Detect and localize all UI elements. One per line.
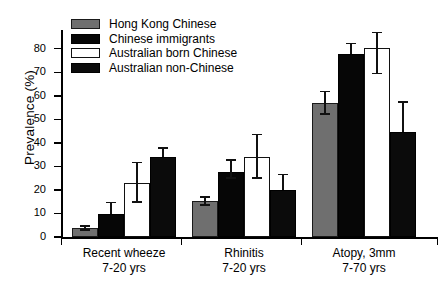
error-bar-cap-bottom [252, 177, 263, 178]
y-axis-tick [54, 95, 62, 96]
error-bar [350, 43, 351, 54]
y-axis-tick-label: 20 [0, 184, 46, 195]
x-axis-tick [181, 238, 182, 245]
bar [312, 103, 338, 237]
error-bar-cap-bottom [372, 73, 383, 74]
legend-swatch-imm [71, 34, 100, 44]
error-bar [324, 91, 325, 115]
y-axis-tick-label: 60 [0, 90, 46, 101]
bar [270, 190, 296, 237]
error-bar [402, 101, 403, 132]
error-bar-cap-top [252, 134, 263, 135]
y-axis-tick [54, 213, 62, 214]
error-bar-cap-top [80, 225, 91, 226]
bar [98, 214, 124, 237]
error-bar [84, 225, 85, 230]
y-axis-tick-label: 50 [0, 113, 46, 124]
legend-label: Chinese immigrants [109, 33, 215, 45]
x-axis-line [61, 237, 438, 239]
error-bar [230, 159, 231, 178]
y-axis-tick [54, 119, 62, 120]
legend-swatch-aus-non [71, 63, 100, 73]
error-bar [162, 147, 163, 157]
chart-figure: Prevalence (%) 01020304050607080 Recent … [0, 0, 448, 281]
legend-label: Hong Kong Chinese [109, 18, 216, 30]
error-bar-cap-bottom [226, 177, 237, 178]
x-axis-tick [437, 238, 438, 245]
y-axis-tick-label: 10 [0, 207, 46, 218]
legend-label: Australian born Chinese [109, 47, 237, 59]
error-bar-cap-top [226, 159, 237, 160]
legend-item: Australian non-Chinese [71, 61, 237, 76]
legend-swatch-hk [71, 19, 100, 29]
legend-item: Australian born Chinese [71, 46, 237, 61]
error-bar-cap-top [158, 147, 169, 148]
error-bar-cap-bottom [320, 113, 331, 114]
error-bar-cap-bottom [132, 201, 143, 202]
y-axis-tick-label: 0 [0, 231, 46, 242]
error-bar [376, 32, 377, 74]
error-bar-cap-top [320, 91, 331, 92]
legend-label: Australian non-Chinese [109, 62, 234, 74]
error-bar-cap-top [278, 174, 289, 175]
error-bar-cap-top [346, 43, 357, 44]
y-axis-tick [54, 142, 62, 143]
bar [390, 132, 416, 237]
error-bar [110, 202, 111, 214]
x-axis-tick [61, 238, 62, 245]
error-bar-cap-top [200, 196, 211, 197]
y-axis-tick [54, 166, 62, 167]
error-bar [256, 134, 257, 179]
bar [192, 201, 218, 237]
error-bar-cap-bottom [80, 229, 91, 230]
error-bar-cap-bottom [200, 204, 211, 205]
bar [364, 48, 390, 237]
x-axis-group-label: Atopy, 3mm7-70 yrs [284, 246, 444, 276]
x-axis-group-label-line2: 7-70 yrs [284, 261, 444, 276]
error-bar-cap-top [398, 101, 409, 102]
y-axis-tick-label: 70 [0, 66, 46, 77]
x-axis-group-label-line1: Atopy, 3mm [284, 246, 444, 261]
error-bar-cap-top [132, 162, 143, 163]
error-bar-cap-top [106, 202, 117, 203]
error-bar-cap-top [372, 32, 383, 33]
chart-legend: Hong Kong ChineseChinese immigrantsAustr… [71, 17, 237, 75]
y-axis-tick [54, 189, 62, 190]
error-bar [204, 196, 205, 205]
legend-item: Chinese immigrants [71, 32, 237, 47]
y-axis-tick-label: 80 [0, 43, 46, 54]
error-bar [136, 162, 137, 203]
bar [218, 172, 244, 237]
legend-swatch-aus-born [71, 48, 100, 58]
x-axis-tick [301, 238, 302, 245]
y-axis-tick [54, 72, 62, 73]
y-axis-tick-label: 30 [0, 160, 46, 171]
error-bar [282, 174, 283, 190]
legend-item: Hong Kong Chinese [71, 17, 237, 32]
bar [338, 54, 364, 237]
y-axis-tick-label: 40 [0, 137, 46, 148]
y-axis-tick [54, 48, 62, 49]
bar [150, 157, 176, 237]
